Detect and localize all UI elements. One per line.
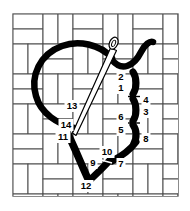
stitch-number-13: 13 bbox=[67, 100, 78, 111]
stitch-number-9: 9 bbox=[90, 157, 95, 168]
weave-brick bbox=[43, 179, 73, 194]
stitch-diagram-root: 1234567891011121314 bbox=[0, 0, 190, 211]
weave-brick bbox=[163, 119, 190, 134]
weave-brick bbox=[133, 149, 163, 164]
weave-brick bbox=[13, 29, 43, 44]
weave-brick bbox=[13, 14, 43, 29]
weave-brick bbox=[13, 74, 43, 89]
stitch-number-6: 6 bbox=[118, 111, 123, 122]
weave-brick bbox=[13, 164, 28, 194]
weave-brick bbox=[163, 74, 178, 104]
stitch-number-10: 10 bbox=[102, 146, 113, 157]
stitch-number-12: 12 bbox=[81, 180, 92, 191]
weave-brick bbox=[43, 59, 73, 74]
weave-brick bbox=[13, 134, 43, 149]
weave-brick bbox=[43, 74, 58, 104]
weave-brick bbox=[28, 164, 43, 194]
weave-brick bbox=[163, 59, 190, 74]
weave-brick bbox=[58, 14, 73, 44]
thread-stitch-3-4 bbox=[133, 99, 136, 121]
weave-brick bbox=[163, 104, 190, 119]
stitch-number-14: 14 bbox=[61, 119, 72, 130]
weave-brick bbox=[103, 74, 118, 104]
stitch-number-4: 4 bbox=[143, 94, 149, 105]
weave-brick bbox=[178, 14, 190, 44]
weave-brick bbox=[73, 44, 88, 74]
weave-brick bbox=[163, 134, 178, 164]
weave-brick bbox=[43, 14, 58, 44]
stitch-number-3: 3 bbox=[143, 106, 148, 117]
stitch-number-11: 11 bbox=[58, 131, 69, 142]
weave-brick bbox=[118, 14, 133, 44]
weave-brick bbox=[13, 149, 43, 164]
weave-brick bbox=[163, 44, 190, 59]
weave-brick bbox=[133, 14, 163, 29]
weave-brick bbox=[163, 14, 178, 44]
weave-brick bbox=[88, 104, 103, 134]
weave-brick bbox=[133, 164, 148, 194]
stitch-diagram-canvas: 1234567891011121314 bbox=[0, 0, 190, 211]
stitch-number-8: 8 bbox=[143, 133, 148, 144]
weave-brick bbox=[148, 44, 163, 74]
stitch-number-1: 1 bbox=[118, 82, 124, 93]
weave-pattern-layer bbox=[13, 14, 190, 211]
weave-brick bbox=[178, 134, 190, 164]
weave-brick bbox=[163, 179, 190, 194]
stitch-number-5: 5 bbox=[118, 124, 124, 135]
weave-brick bbox=[103, 179, 133, 194]
weave-brick bbox=[43, 164, 73, 179]
weave-bricks bbox=[13, 14, 190, 211]
weave-brick bbox=[163, 164, 190, 179]
weave-brick bbox=[13, 104, 28, 134]
weave-brick bbox=[13, 44, 28, 74]
stitch-number-7: 7 bbox=[118, 158, 123, 169]
weave-brick bbox=[73, 14, 103, 29]
thread-stitch-1-2 bbox=[133, 72, 136, 94]
weave-brick bbox=[148, 164, 163, 194]
weave-brick bbox=[133, 209, 163, 211]
basketweave-canvas-group bbox=[13, 14, 190, 211]
stitch-number-2: 2 bbox=[118, 71, 123, 82]
weave-brick bbox=[73, 209, 103, 211]
weave-brick bbox=[178, 194, 190, 211]
weave-brick bbox=[178, 74, 190, 104]
weave-brick bbox=[13, 209, 43, 211]
